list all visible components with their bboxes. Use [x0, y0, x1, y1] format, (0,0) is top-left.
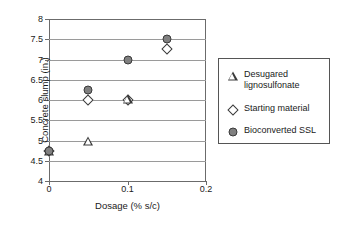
x-axis-title: Dosage (% s/c) [49, 200, 206, 211]
legend-item[interactable]: Bioconverted SSL [227, 125, 316, 137]
x-tick-label: 0.1 [121, 185, 134, 194]
gridline [49, 161, 206, 162]
diamond-open-icon [227, 104, 238, 115]
y-tick-mark [45, 19, 49, 20]
chart-legend: Desugared lignosulfonateStarting materia… [218, 58, 330, 144]
gridline [49, 120, 206, 121]
gridline [49, 141, 206, 142]
data-point [83, 94, 94, 105]
legend-item[interactable]: Starting material [227, 103, 310, 115]
data-point [162, 35, 171, 44]
data-point [161, 44, 172, 55]
gridline [49, 80, 206, 81]
gridline [49, 19, 206, 20]
data-point [83, 136, 93, 145]
diamond-open-icon [227, 104, 238, 115]
y-tick-label: 7.5 [30, 35, 43, 44]
y-axis-title: Concrete slump (in.) [39, 57, 50, 143]
plot-container: 44.555.566.577.58 00.10.2 Dosage (% s/c)… [0, 0, 215, 235]
circle-filled-icon [227, 126, 238, 137]
circle-filled-icon [228, 127, 237, 136]
gridline [49, 39, 206, 40]
plot-area: 44.555.566.577.58 00.10.2 [49, 19, 206, 181]
y-tick-label: 8 [38, 15, 43, 24]
legend-label: Bioconverted SSL [244, 125, 316, 136]
data-point [45, 146, 54, 155]
legend-item[interactable]: Desugared lignosulfonate [227, 69, 300, 91]
y-tick-label: 4.5 [30, 156, 43, 165]
data-point [84, 85, 93, 94]
y-tick-mark [45, 161, 49, 162]
data-point [123, 94, 133, 103]
legend-label: Desugared lignosulfonate [244, 69, 300, 91]
y-tick-mark [45, 39, 49, 40]
x-tick-label: 0 [46, 185, 51, 194]
y-tick-label: 4 [38, 177, 43, 186]
triangle-open-icon [228, 71, 238, 80]
data-points-group [49, 19, 206, 46]
x-tick-label: 0.2 [200, 185, 213, 194]
triangle-open-icon [227, 70, 238, 81]
chart-figure: 44.555.566.577.58 00.10.2 Dosage (% s/c)… [0, 0, 345, 235]
legend-label: Starting material [244, 103, 310, 114]
data-point [123, 55, 132, 64]
